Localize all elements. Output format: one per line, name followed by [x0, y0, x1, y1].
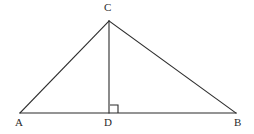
vertex-label-a: A [15, 117, 23, 128]
geometry-figure: A B C D [0, 0, 254, 134]
geometry-canvas [0, 0, 254, 134]
right-angle-icon [110, 105, 118, 113]
segment-side-CB [109, 21, 236, 113]
segment-side-AC [20, 21, 109, 113]
vertex-label-b: B [234, 117, 241, 128]
vertex-label-d: D [104, 117, 112, 128]
vertex-label-c: C [104, 2, 111, 13]
